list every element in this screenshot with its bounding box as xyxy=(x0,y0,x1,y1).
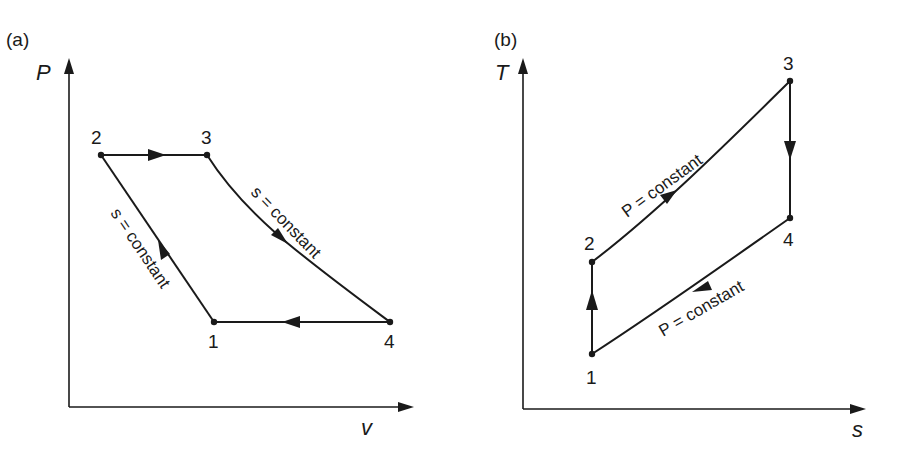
direction-arrow-icon xyxy=(282,316,300,328)
state-point-3 xyxy=(787,78,793,84)
direction-arrow-icon xyxy=(784,141,796,160)
panel-b-label: (b) xyxy=(494,29,517,50)
panel-a-label: (a) xyxy=(6,29,29,50)
state-point-1 xyxy=(589,351,595,357)
panel-b-axes: T s xyxy=(495,58,866,442)
brayton-cycle-figure: (a) P v xyxy=(0,0,902,458)
direction-arrow-icon xyxy=(692,281,712,292)
panel-a-pv-diagram: (a) P v xyxy=(6,29,414,440)
state-label-4: 4 xyxy=(384,331,395,352)
state-label-3: 3 xyxy=(201,127,212,148)
state-label-4: 4 xyxy=(783,229,794,250)
state-label-1: 1 xyxy=(208,331,219,352)
annotation-isobaric-2-3: P = constant xyxy=(618,150,706,221)
state-point-4 xyxy=(787,215,793,221)
direction-arrow-icon xyxy=(158,240,170,260)
state-point-1 xyxy=(211,319,217,325)
state-point-2 xyxy=(589,259,595,265)
direction-arrow-icon xyxy=(586,290,598,310)
t-axis-label: T xyxy=(495,60,510,85)
p-axis-arrow-icon xyxy=(64,58,74,74)
v-axis-label: v xyxy=(361,415,374,440)
s-axis-label: s xyxy=(852,417,863,442)
state-label-3: 3 xyxy=(783,53,794,74)
panel-a-cycle: 2 3 4 1 s = constant s = constant xyxy=(91,127,395,352)
state-label-2: 2 xyxy=(584,233,595,254)
direction-arrow-icon xyxy=(148,149,166,161)
state-point-3 xyxy=(204,152,210,158)
state-point-4 xyxy=(387,319,393,325)
s-axis-arrow-icon xyxy=(850,404,866,414)
panel-a-axes: P v xyxy=(36,58,414,440)
state-label-1: 1 xyxy=(586,367,597,388)
t-axis-arrow-icon xyxy=(518,58,528,74)
p-axis-label: P xyxy=(36,60,51,85)
state-point-2 xyxy=(98,152,104,158)
panel-b-cycle: 1 2 3 4 P = constant P = constant xyxy=(584,53,796,388)
state-label-2: 2 xyxy=(91,127,102,148)
v-axis-arrow-icon xyxy=(398,402,414,412)
panel-b-ts-diagram: (b) T s 1 2 xyxy=(494,29,866,442)
process-1-2 xyxy=(101,155,214,322)
annotation-isentropic-3-4: s = constant xyxy=(247,183,325,263)
